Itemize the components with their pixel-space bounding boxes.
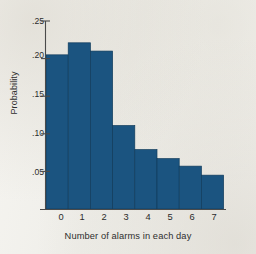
- x-axis-label: Number of alarms in each day: [0, 231, 256, 241]
- chart-page: Probability .25 .20 .15 .10 .05 0 1 2 3 …: [0, 0, 256, 254]
- histogram-plot: Probability .25 .20 .15 .10 .05 0 1 2 3 …: [0, 0, 256, 254]
- chart-svg: [0, 0, 256, 254]
- histogram-bar: [179, 166, 201, 209]
- bars-group: [46, 43, 224, 209]
- histogram-bar: [135, 150, 157, 209]
- histogram-bar: [157, 159, 179, 209]
- histogram-bar: [68, 43, 90, 209]
- histogram-bar: [113, 126, 135, 209]
- histogram-bar: [201, 175, 223, 209]
- histogram-bar: [90, 51, 112, 209]
- histogram-bar: [46, 55, 68, 209]
